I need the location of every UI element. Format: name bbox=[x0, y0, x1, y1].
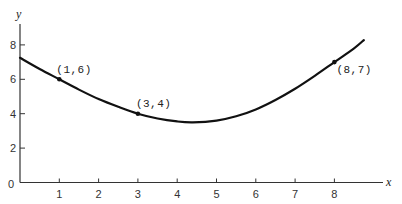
x-tick-label: 1 bbox=[56, 188, 62, 200]
data-point-marker bbox=[136, 111, 141, 116]
curve-line bbox=[20, 40, 364, 122]
series bbox=[20, 40, 364, 122]
y-tick-label: 4 bbox=[10, 108, 16, 120]
x-tick-label: 6 bbox=[253, 188, 259, 200]
data-point-marker bbox=[57, 77, 62, 82]
y-tick-label: 6 bbox=[10, 73, 16, 85]
y-tick-label: 8 bbox=[10, 39, 16, 51]
x-axis-title: x bbox=[385, 175, 392, 189]
x-tick-label: 7 bbox=[292, 188, 298, 200]
y-axis-title: y bbox=[15, 7, 22, 21]
y-tick-label: 2 bbox=[10, 142, 16, 154]
x-tick-label: 5 bbox=[213, 188, 219, 200]
ticks: 123456782468 bbox=[10, 39, 338, 200]
x-tick-label: 2 bbox=[96, 188, 102, 200]
data-point-label: (1,6) bbox=[56, 64, 92, 76]
x-tick-label: 3 bbox=[135, 188, 141, 200]
chart: y x 0 123456782468 (1,6)(3,4)(8,7) bbox=[0, 0, 402, 204]
data-point-label: (3,4) bbox=[136, 98, 172, 110]
data-point-label: (8,7) bbox=[336, 64, 372, 76]
axes: y x 0 bbox=[8, 7, 392, 190]
plot-area: y x 0 123456782468 (1,6)(3,4)(8,7) bbox=[0, 0, 402, 204]
x-tick-label: 8 bbox=[331, 188, 337, 200]
origin-label: 0 bbox=[8, 178, 14, 190]
x-tick-label: 4 bbox=[174, 188, 180, 200]
